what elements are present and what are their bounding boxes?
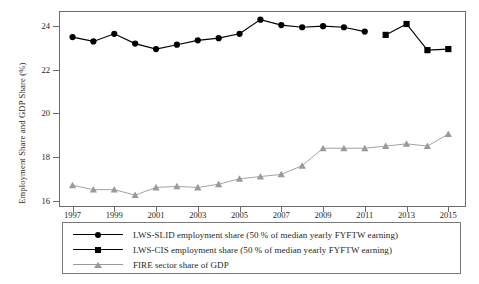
- data-point-marker: [216, 35, 222, 41]
- legend-label: LWS-SLID employment share (50 % of media…: [133, 230, 398, 240]
- triangle-marker-icon: [94, 262, 102, 268]
- y-tick-label-18: 18: [28, 152, 50, 162]
- legend-label: FIRE sector share of GDP: [133, 260, 229, 270]
- x-tick-mark-2001: [156, 207, 157, 212]
- legend-key-square: [69, 244, 127, 256]
- data-point-marker: [445, 130, 452, 137]
- data-point-marker: [195, 37, 201, 43]
- legend-key-triangle: [69, 259, 127, 271]
- x-tick-mark-2013: [407, 207, 408, 212]
- data-point-marker: [111, 31, 117, 37]
- data-series-canvas: [60, 12, 465, 206]
- circle-marker-icon: [95, 232, 101, 238]
- legend-item-1[interactable]: LWS-SLID employment share (50 % of media…: [69, 227, 398, 242]
- data-point-marker: [132, 41, 138, 47]
- y-axis-title-container: Employment Share and GDP Share (%): [4, 0, 22, 210]
- data-point-marker: [69, 182, 76, 189]
- legend-item-3[interactable]: FIRE sector share of GDP: [69, 257, 229, 272]
- x-tick-mark-2015: [448, 207, 449, 212]
- y-tick-label-24: 24: [28, 21, 50, 31]
- data-point-marker: [341, 24, 347, 30]
- series-2: [383, 21, 452, 53]
- y-axis-title: Employment Share and GDP Share (%): [17, 62, 27, 204]
- x-tick-mark-2009: [323, 207, 324, 212]
- chart-figure: Employment Share and GDP Share (%) 16182…: [0, 0, 479, 284]
- x-tick-mark-2011: [365, 207, 366, 212]
- data-point-marker: [173, 183, 180, 190]
- x-tick-mark-1999: [114, 207, 115, 212]
- data-point-marker: [236, 31, 242, 37]
- data-point-marker: [278, 171, 285, 178]
- series-1: [69, 17, 367, 53]
- x-tick-mark-2007: [281, 207, 282, 212]
- x-tick-mark-2005: [240, 207, 241, 212]
- y-tick-label-20: 20: [28, 108, 50, 118]
- data-point-marker: [299, 24, 305, 30]
- data-point-marker: [320, 23, 326, 29]
- series-line: [386, 24, 449, 50]
- data-point-marker: [362, 29, 368, 35]
- y-tick-label-22: 22: [28, 65, 50, 75]
- x-tick-mark-1997: [73, 207, 74, 212]
- y-tick-label-16: 16: [28, 196, 50, 206]
- square-marker-icon: [95, 247, 101, 253]
- data-point-marker: [174, 42, 180, 48]
- series-3: [69, 130, 452, 198]
- chart-legend: LWS-SLID employment share (50 % of media…: [62, 222, 461, 274]
- data-point-marker: [69, 34, 75, 40]
- data-point-marker: [445, 46, 451, 52]
- legend-key-circle: [69, 229, 127, 241]
- data-point-marker: [153, 46, 159, 52]
- legend-item-2[interactable]: LWS-CIS employment share (50 % of median…: [69, 242, 392, 257]
- series-line: [73, 134, 449, 195]
- data-point-marker: [383, 32, 389, 38]
- legend-label: LWS-CIS employment share (50 % of median…: [133, 245, 392, 255]
- data-point-marker: [90, 38, 96, 44]
- data-point-marker: [403, 21, 409, 27]
- data-point-marker: [403, 140, 410, 147]
- data-point-marker: [257, 17, 263, 23]
- data-point-marker: [424, 47, 430, 53]
- x-tick-mark-2003: [198, 207, 199, 212]
- data-point-marker: [278, 22, 284, 28]
- plot-area: [59, 11, 466, 207]
